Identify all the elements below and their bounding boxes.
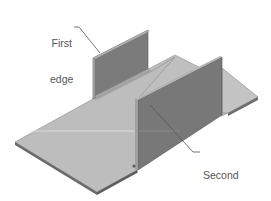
base-plate-tab xyxy=(222,68,258,113)
first-edge-leader xyxy=(74,27,100,53)
second-edge-label: Second edge xyxy=(203,145,239,201)
first-flange-side xyxy=(93,58,95,100)
first-edge-label-line2: edge xyxy=(50,73,73,85)
second-flange-side xyxy=(135,99,138,170)
first-edge-label: First edge xyxy=(50,13,73,109)
sheet-metal-diagram: First edge Second edge xyxy=(0,0,271,201)
second-edge-label-line1: Second xyxy=(203,169,239,181)
relief-notch xyxy=(132,164,135,167)
first-edge-label-line1: First xyxy=(50,37,73,49)
